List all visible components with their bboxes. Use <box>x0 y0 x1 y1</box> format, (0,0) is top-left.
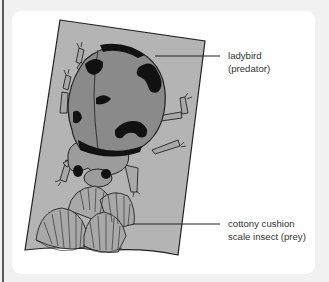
label-line: cottony cushion <box>228 218 306 231</box>
label-line: scale insect (prey) <box>228 231 306 244</box>
label-line: ladybird <box>228 50 270 63</box>
label-scale-insect-prey: cottony cushion scale insect (prey) <box>228 218 306 243</box>
label-line: (predator) <box>228 63 270 76</box>
label-ladybird-predator: ladybird (predator) <box>228 50 270 75</box>
